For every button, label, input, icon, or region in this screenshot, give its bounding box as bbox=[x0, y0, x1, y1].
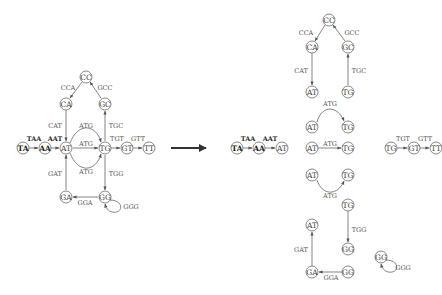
svg-text:GG: GG bbox=[342, 268, 354, 277]
svg-text:CA: CA bbox=[60, 100, 72, 109]
svg-text:TG: TG bbox=[343, 201, 354, 210]
edge-label-tgc: TGC bbox=[352, 67, 367, 75]
node-gg: GG bbox=[342, 243, 354, 255]
de-bruijn-diagram: TAA AAT ATG ATG ATG TGT GTT CCA GCC CAT … bbox=[0, 0, 442, 295]
edge-label-tgc: TGC bbox=[109, 122, 124, 130]
node-cc: CC bbox=[323, 14, 335, 26]
svg-text:GG: GG bbox=[99, 193, 111, 202]
node-ta: TA bbox=[17, 142, 29, 154]
node-tt: TT bbox=[143, 142, 155, 154]
svg-text:GA: GA bbox=[306, 268, 318, 277]
svg-text:CA: CA bbox=[306, 43, 318, 52]
edge-label-atg-top: ATG bbox=[322, 100, 337, 108]
edge-label-atg-bottom: ATG bbox=[78, 168, 93, 176]
svg-text:TG: TG bbox=[386, 144, 397, 153]
left-graph: TAA AAT ATG ATG ATG TGT GTT CCA GCC CAT … bbox=[17, 71, 155, 212]
svg-text:GT: GT bbox=[409, 144, 420, 153]
edge-label-cca: CCA bbox=[61, 84, 76, 92]
edge-label-ggg: GGG bbox=[395, 264, 411, 272]
edge-label-tgg: TGG bbox=[109, 170, 124, 178]
svg-text:AT: AT bbox=[276, 144, 287, 153]
edge-label-cat: CAT bbox=[294, 67, 308, 75]
edge-label-gga: GGA bbox=[77, 199, 92, 207]
edge-label-aat: AAT bbox=[262, 135, 278, 143]
svg-text:GA: GA bbox=[60, 193, 72, 202]
node-gg: GG bbox=[375, 251, 387, 263]
edge-label-gtt: GTT bbox=[418, 135, 433, 143]
svg-text:TT: TT bbox=[431, 144, 441, 153]
edge-label-ggg: GGG bbox=[123, 203, 139, 211]
edge-label-gat: GAT bbox=[48, 170, 63, 178]
svg-text:TA: TA bbox=[18, 144, 29, 153]
svg-text:GT: GT bbox=[122, 144, 133, 153]
node-at: AT bbox=[276, 142, 288, 154]
node-tg: TG bbox=[342, 169, 354, 181]
node-gt: GT bbox=[408, 142, 420, 154]
edge-label-atg-top: ATG bbox=[78, 122, 93, 130]
svg-text:GG: GG bbox=[375, 253, 387, 262]
edge-label-gcc: GCC bbox=[97, 84, 112, 92]
node-aa: AA bbox=[252, 142, 265, 154]
node-ta: TA bbox=[231, 142, 243, 154]
edge-at-tg-arc-top bbox=[317, 109, 344, 122]
node-at: AT bbox=[306, 86, 318, 98]
node-tg: TG bbox=[342, 86, 354, 98]
right-graph: CCA GCC CAT TGC CC CA GC AT TG ATG AT TG… bbox=[231, 14, 442, 282]
node-at: AT bbox=[306, 169, 318, 181]
edge-label-aat: AAT bbox=[47, 135, 63, 143]
edge-label-gga: GGA bbox=[323, 274, 338, 282]
edge-gc-cc bbox=[333, 25, 345, 41]
svg-text:GG: GG bbox=[342, 245, 354, 254]
edge-label-tgg: TGG bbox=[352, 226, 367, 234]
svg-text:AT: AT bbox=[306, 88, 317, 97]
node-tt: TT bbox=[430, 142, 442, 154]
node-gc: GC bbox=[342, 41, 354, 53]
edge-label-atg-mid: ATG bbox=[322, 140, 337, 148]
node-aa: AA bbox=[38, 142, 51, 154]
node-tg: TG bbox=[342, 199, 354, 211]
node-tg: TG bbox=[342, 121, 354, 133]
edge-at-tg-arc-bottom bbox=[70, 153, 101, 168]
edge-label-gat: GAT bbox=[294, 246, 309, 254]
svg-text:AT: AT bbox=[306, 144, 317, 153]
node-tg: TG bbox=[385, 142, 397, 154]
edge-label-gcc: GCC bbox=[344, 29, 359, 37]
node-gg: GG bbox=[342, 266, 354, 278]
svg-text:CC: CC bbox=[80, 73, 92, 82]
edge-label-tgt: TGT bbox=[110, 135, 125, 143]
node-cc: CC bbox=[80, 71, 92, 83]
node-tg: TG bbox=[99, 142, 111, 154]
node-at: AT bbox=[306, 121, 318, 133]
edge-label-atg-mid: ATG bbox=[78, 140, 93, 148]
svg-text:TG: TG bbox=[343, 144, 354, 153]
svg-text:AT: AT bbox=[306, 171, 317, 180]
svg-text:AT: AT bbox=[60, 144, 71, 153]
svg-text:TT: TT bbox=[144, 144, 154, 153]
edge-label-cca: CCA bbox=[299, 29, 314, 37]
node-at: AT bbox=[60, 142, 72, 154]
edge-cc-ca bbox=[315, 25, 325, 41]
edge-label-atg-bottom: ATG bbox=[322, 192, 337, 200]
svg-text:AT: AT bbox=[306, 123, 317, 132]
edge-label-cat: CAT bbox=[48, 122, 62, 130]
svg-text:GC: GC bbox=[99, 100, 111, 109]
node-at: AT bbox=[306, 142, 318, 154]
svg-text:AT: AT bbox=[306, 221, 317, 230]
node-gt: GT bbox=[121, 142, 133, 154]
svg-text:TG: TG bbox=[100, 144, 111, 153]
edge-label-gtt: GTT bbox=[131, 135, 146, 143]
node-gc: GC bbox=[99, 98, 111, 110]
svg-text:TG: TG bbox=[343, 88, 354, 97]
node-gg: GG bbox=[99, 191, 111, 203]
svg-text:TA: TA bbox=[232, 144, 243, 153]
node-ga: GA bbox=[306, 266, 318, 278]
node-tg: TG bbox=[342, 142, 354, 154]
edge-label-tgt: TGT bbox=[396, 135, 411, 143]
svg-text:AA: AA bbox=[38, 144, 51, 153]
node-at: AT bbox=[306, 219, 318, 231]
svg-text:AA: AA bbox=[252, 144, 265, 153]
node-ga: GA bbox=[60, 191, 72, 203]
node-ca: CA bbox=[306, 41, 318, 53]
svg-text:CC: CC bbox=[323, 16, 335, 25]
edge-label-taa: TAA bbox=[241, 135, 257, 143]
